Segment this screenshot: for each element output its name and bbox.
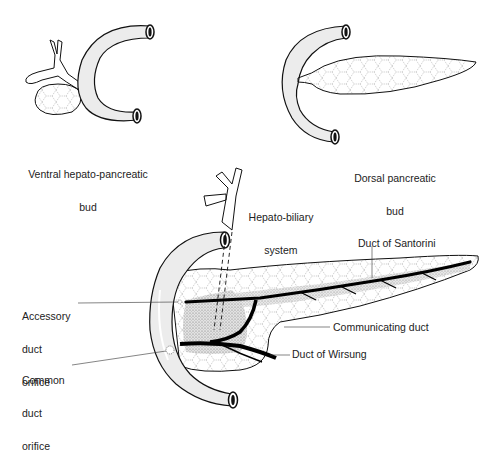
common-orifice-label-line2: duct [22, 408, 65, 419]
dorsal-bud-label-line2: bud [340, 206, 450, 217]
dorsal-pancreatic-bud [298, 56, 476, 95]
hepato-biliary-label-line2: system [236, 245, 326, 256]
wirsung-label: Duct of Wirsung [292, 349, 367, 360]
common-orifice-label: Common duct orifice [22, 353, 65, 454]
accessory-orifice-label-line1: Accessory [22, 311, 70, 322]
ventral-bud-label: Ventral hepato-pancreatic bud [8, 147, 168, 224]
hepato-biliary-label-line1: Hepato-biliary [236, 212, 326, 223]
ventral-bud-label-line1: Ventral hepato-pancreatic [8, 169, 168, 180]
ventral-bud-drawing [26, 25, 154, 123]
santorini-label: Duct of Santorini [358, 238, 436, 249]
dorsal-bud-label: Dorsal pancreatic bud [340, 151, 450, 228]
common-orifice-label-line1: Common [22, 375, 65, 386]
dorsal-bud-label-line1: Dorsal pancreatic [340, 173, 450, 184]
ventral-pancreatic-lobule [35, 84, 81, 115]
accessory-duct-orifice [178, 300, 182, 304]
dorsal-bud-drawing [282, 25, 476, 144]
communicating-duct-label: Communicating duct [333, 322, 429, 333]
common-orifice-label-line3: orifice [22, 441, 65, 452]
ventral-duodenum [78, 26, 150, 121]
ventral-bud-label-line2: bud [8, 202, 168, 213]
common-leader [72, 351, 166, 365]
hepato-biliary-label: Hepato-biliary system [236, 190, 326, 267]
ventral-bile-duct [26, 40, 82, 90]
common-duct-orifice [166, 346, 174, 354]
